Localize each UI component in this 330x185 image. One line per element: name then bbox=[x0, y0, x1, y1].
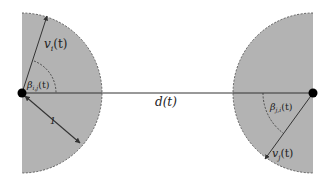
agent-i-dot bbox=[18, 89, 27, 98]
agent-j-dot bbox=[309, 89, 318, 98]
velocity-i-label: vi(t) bbox=[44, 37, 68, 53]
unit-radius-label: 1 bbox=[50, 116, 56, 126]
distance-label: d(t) bbox=[155, 95, 177, 109]
diagram-canvas: vi(t) βi,j(t) 1 d(t) βj,i(t) vj(t) bbox=[0, 0, 330, 185]
velocity-j-label: vj(t) bbox=[272, 147, 293, 162]
